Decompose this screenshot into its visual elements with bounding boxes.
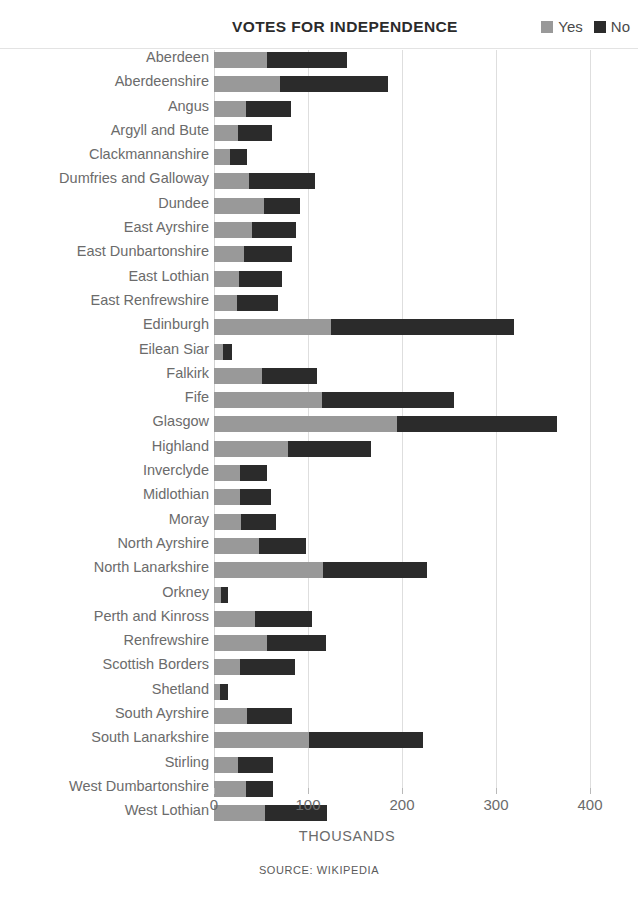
- bar-row[interactable]: Argyll and Bute: [0, 121, 638, 145]
- bar-row[interactable]: Fife: [0, 388, 638, 412]
- bar-segment-no[interactable]: [264, 198, 301, 214]
- bar-segment-no[interactable]: [239, 271, 281, 287]
- bar-row[interactable]: Moray: [0, 510, 638, 534]
- bar-segment-yes[interactable]: [214, 101, 246, 117]
- bar-row[interactable]: Edinburgh: [0, 315, 638, 339]
- bar-row[interactable]: Falkirk: [0, 364, 638, 388]
- bar-segment-yes[interactable]: [214, 757, 238, 773]
- category-label: Glasgow: [153, 413, 209, 429]
- bar-segment-yes[interactable]: [214, 271, 239, 287]
- category-label: East Ayrshire: [124, 219, 209, 235]
- bar-segment-yes[interactable]: [214, 52, 267, 68]
- bar-row[interactable]: Dundee: [0, 194, 638, 218]
- bar-segment-yes[interactable]: [214, 416, 397, 432]
- bar-row[interactable]: Angus: [0, 97, 638, 121]
- bar-row[interactable]: Shetland: [0, 680, 638, 704]
- bar-segment-no[interactable]: [221, 587, 229, 603]
- bar-segment-no[interactable]: [220, 684, 228, 700]
- bar-segment-yes[interactable]: [214, 659, 240, 675]
- bar-segment-yes[interactable]: [214, 538, 259, 554]
- bar-segment-no[interactable]: [267, 52, 347, 68]
- bar-segment-yes[interactable]: [214, 562, 323, 578]
- bar-segment-no[interactable]: [241, 514, 276, 530]
- bar-row[interactable]: North Ayrshire: [0, 534, 638, 558]
- x-tick-label: 300: [483, 796, 508, 813]
- bar-segment-no[interactable]: [262, 368, 317, 384]
- bar-segment-yes[interactable]: [214, 295, 237, 311]
- bar-row[interactable]: South Lanarkshire: [0, 728, 638, 752]
- bar-row[interactable]: East Dunbartonshire: [0, 242, 638, 266]
- bar-segment-no[interactable]: [230, 149, 247, 165]
- bar-row[interactable]: East Lothian: [0, 267, 638, 291]
- category-label: Inverclyde: [143, 462, 209, 478]
- bar-row[interactable]: East Renfrewshire: [0, 291, 638, 315]
- bar-row[interactable]: Aberdeen: [0, 48, 638, 72]
- bar-row[interactable]: Perth and Kinross: [0, 607, 638, 631]
- bar-segment-no[interactable]: [252, 222, 296, 238]
- bar-row[interactable]: Scottish Borders: [0, 655, 638, 679]
- bar-segment-yes[interactable]: [214, 514, 241, 530]
- bar-segment-yes[interactable]: [214, 441, 288, 457]
- bar-segment-yes[interactable]: [214, 611, 255, 627]
- bar-segment-no[interactable]: [323, 562, 427, 578]
- bar-segment-no[interactable]: [246, 101, 291, 117]
- bar-row[interactable]: North Lanarkshire: [0, 558, 638, 582]
- bar-row[interactable]: Inverclyde: [0, 461, 638, 485]
- bar-segment-no[interactable]: [280, 76, 388, 92]
- bar-segment-yes[interactable]: [214, 173, 249, 189]
- bar-row[interactable]: Clackmannanshire: [0, 145, 638, 169]
- bar-segment-no[interactable]: [267, 635, 326, 651]
- bar-segment-yes[interactable]: [214, 149, 230, 165]
- bar-row[interactable]: South Ayrshire: [0, 704, 638, 728]
- bar-row[interactable]: Glasgow: [0, 412, 638, 436]
- bar-segment-no[interactable]: [247, 708, 292, 724]
- chart-header: VOTES FOR INDEPENDENCE YesNo: [0, 16, 638, 42]
- bar-segment-no[interactable]: [240, 489, 271, 505]
- bar-segment-no[interactable]: [397, 416, 557, 432]
- bar-segment-no[interactable]: [331, 319, 514, 335]
- bar-segment-no[interactable]: [288, 441, 371, 457]
- bar-segment-yes[interactable]: [214, 587, 221, 603]
- bar-row[interactable]: Dumfries and Galloway: [0, 169, 638, 193]
- bar-segment-yes[interactable]: [214, 76, 280, 92]
- legend-item-yes[interactable]: Yes: [541, 18, 582, 35]
- bar-segment-no[interactable]: [259, 538, 306, 554]
- bar-segment-no[interactable]: [223, 344, 231, 360]
- legend-swatch-icon: [541, 21, 553, 33]
- bar-row[interactable]: Aberdeenshire: [0, 72, 638, 96]
- bar-row[interactable]: Midlothian: [0, 485, 638, 509]
- bar-row[interactable]: Renfrewshire: [0, 631, 638, 655]
- bar-segment-no[interactable]: [249, 173, 315, 189]
- bar-segment-yes[interactable]: [214, 465, 240, 481]
- bar-segment-yes[interactable]: [214, 635, 267, 651]
- bar-segment-yes[interactable]: [214, 222, 252, 238]
- bar-segment-yes[interactable]: [214, 319, 331, 335]
- bar-row[interactable]: East Ayrshire: [0, 218, 638, 242]
- source-note: SOURCE: WIKIPEDIA: [0, 864, 638, 876]
- bar-row[interactable]: Orkney: [0, 583, 638, 607]
- bar-segment-yes[interactable]: [214, 708, 247, 724]
- bar-segment-yes[interactable]: [214, 392, 322, 408]
- legend-item-no[interactable]: No: [594, 18, 630, 35]
- bar-segment-no[interactable]: [255, 611, 311, 627]
- bar-segment-no[interactable]: [244, 246, 292, 262]
- bar-segment-yes[interactable]: [214, 489, 240, 505]
- bar-row[interactable]: Eilean Siar: [0, 340, 638, 364]
- category-label: North Ayrshire: [117, 535, 209, 551]
- bar-segment-yes[interactable]: [214, 368, 262, 384]
- bar-segment-no[interactable]: [309, 732, 423, 748]
- bar-segment-yes[interactable]: [214, 125, 238, 141]
- bar-segment-no[interactable]: [237, 295, 278, 311]
- bar-segment-no[interactable]: [238, 125, 272, 141]
- bar-segment-yes[interactable]: [214, 198, 264, 214]
- bar-segment-no[interactable]: [240, 465, 266, 481]
- bar-segment-no[interactable]: [240, 659, 295, 675]
- bar-segment-yes[interactable]: [214, 344, 223, 360]
- category-label: South Lanarkshire: [91, 729, 209, 745]
- bar-segment-yes[interactable]: [214, 246, 244, 262]
- bar-segment-no[interactable]: [322, 392, 454, 408]
- bar-segment-no[interactable]: [238, 757, 273, 773]
- bar-row[interactable]: Stirling: [0, 753, 638, 777]
- bar-segment-yes[interactable]: [214, 732, 309, 748]
- bar-row[interactable]: Highland: [0, 437, 638, 461]
